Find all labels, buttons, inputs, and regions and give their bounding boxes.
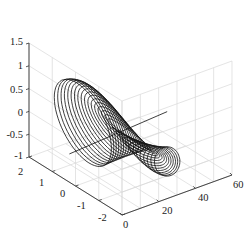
x-tick-label: 60	[233, 179, 244, 190]
z-tick-label: 1.5	[10, 36, 23, 47]
z-tick-label: -1	[14, 150, 23, 161]
x-tick-label: 0	[123, 219, 128, 230]
z-tick-label: 0	[18, 107, 23, 118]
y-tick-label: -1	[77, 200, 86, 211]
y-tick-label: 2	[18, 166, 23, 177]
y-tick-label: 0	[60, 188, 65, 199]
x-tick-label: 40	[198, 192, 209, 203]
y-tick-label: -2	[98, 212, 107, 223]
z-tick-label: 0.5	[10, 84, 23, 95]
z-tick-label: -0.5	[6, 129, 23, 140]
x-tick-labels: 0 20 40 60	[123, 179, 244, 230]
3d-line-plot: 1.5 1 0.5 0 -0.5 -1 2 1 0 -1 -2 0 20 40 …	[0, 0, 248, 231]
z-tick-labels: 1.5 1 0.5 0 -0.5 -1	[6, 36, 23, 161]
y-tick-label: 1	[39, 177, 44, 188]
z-tick-label: 1	[18, 60, 23, 71]
x-tick-label: 20	[162, 205, 173, 216]
